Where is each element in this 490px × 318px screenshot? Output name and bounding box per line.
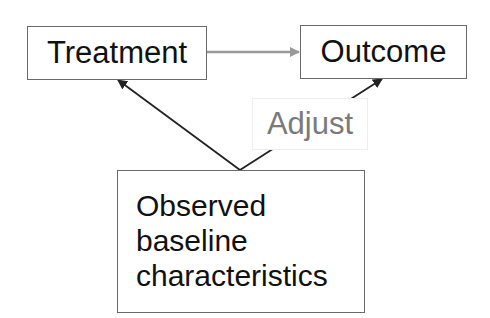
baseline-characteristics-node: Observed baseline characteristics — [117, 170, 365, 313]
treatment-node: Treatment — [27, 26, 207, 80]
arrow-baseline-to-treatment — [118, 80, 240, 170]
outcome-label: Outcome — [321, 34, 447, 70]
adjust-label: Adjust — [267, 106, 353, 142]
adjust-edge-label: Adjust — [252, 98, 368, 150]
baseline-line-1: Observed — [136, 188, 364, 223]
baseline-line-2: baseline — [136, 223, 364, 258]
treatment-label: Treatment — [47, 35, 187, 71]
baseline-line-3: characteristics — [136, 258, 364, 293]
outcome-node: Outcome — [300, 25, 467, 79]
